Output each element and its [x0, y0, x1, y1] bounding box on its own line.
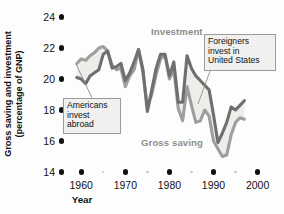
- x-minor-tick-dot: [102, 171, 104, 173]
- x-minor-tick-dot: [146, 171, 148, 173]
- chart-figure: Gross saving and investment (percentage …: [0, 0, 284, 214]
- gross-saving-label: Gross saving: [141, 137, 203, 148]
- y-tick-label: 20: [33, 74, 55, 84]
- x-tick-dot: [255, 169, 260, 174]
- x-tick-dot: [79, 169, 84, 174]
- x-minor-tick-dot: [234, 171, 236, 173]
- annotation-leader-line: [198, 71, 210, 104]
- x-tick-dot: [211, 169, 216, 174]
- x-tick-label: 1990: [197, 180, 231, 190]
- annotation-foreigners-invest-in-united-states: Foreignersinvest inUnited States: [204, 34, 276, 71]
- x-tick-dot: [123, 169, 128, 174]
- x-tick-label: 1970: [108, 180, 142, 190]
- y-tick-label: 22: [33, 43, 55, 53]
- y-tick-dot: [59, 76, 64, 81]
- y-tick-dot: [59, 169, 64, 174]
- x-tick-dot: [167, 169, 172, 174]
- y-tick-dot: [59, 45, 64, 50]
- x-tick-label: 1980: [152, 180, 186, 190]
- y-tick-label: 14: [33, 167, 55, 177]
- investment-label: Investment: [151, 26, 203, 37]
- y-axis-title: Gross saving and investment (percentage …: [0, 12, 29, 176]
- y-axis-title-line1: Gross saving and investment: [3, 31, 14, 156]
- y-tick-label: 24: [33, 12, 55, 22]
- y-axis-title-line2: (percentage of GNP): [14, 31, 25, 156]
- y-tick-dot: [59, 14, 64, 19]
- y-tick-label: 18: [33, 105, 55, 115]
- y-tick-label: 16: [33, 136, 55, 146]
- x-tick-label: 2000: [241, 180, 275, 190]
- annotation-line: abroad: [67, 120, 117, 130]
- annotation-leader-line: [76, 64, 92, 98]
- annotation-line: United States: [208, 56, 272, 66]
- y-tick-dot: [59, 138, 64, 143]
- x-axis-title: Year: [60, 194, 104, 205]
- annotation-americans-invest-abroad: Americansinvestabroad: [63, 98, 121, 134]
- x-tick-label: 1960: [64, 180, 98, 190]
- x-minor-tick-dot: [190, 171, 192, 173]
